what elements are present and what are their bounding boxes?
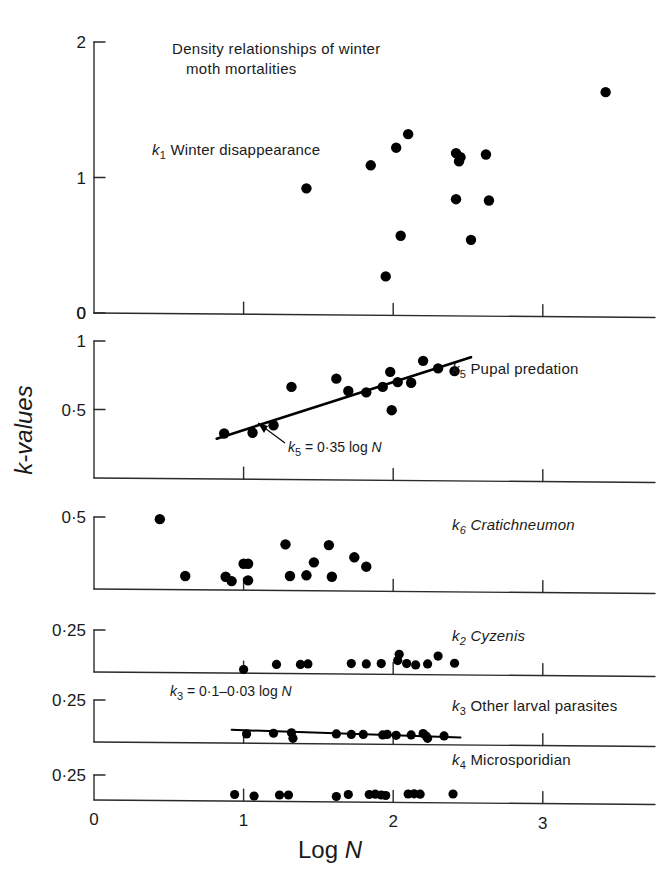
- panel-k6: 0·5k6 Cratichneumon: [61, 508, 655, 594]
- data-point: [301, 183, 311, 193]
- y-axis-title-group: k-values: [10, 385, 37, 474]
- panel-label-k3: k3 Other larval parasites: [452, 697, 617, 717]
- panel-k1: 0120k1 Winter disappearance: [77, 33, 655, 323]
- x-tick-label-0: 0: [89, 810, 98, 829]
- data-point: [392, 377, 402, 387]
- x-tick-label-3: 3: [538, 814, 547, 833]
- y-tick-label-k1-2: 2: [77, 33, 86, 52]
- data-point: [439, 731, 448, 740]
- y-tick-label-k4-0: 0·25: [52, 766, 86, 785]
- data-point: [377, 659, 386, 668]
- data-point: [286, 382, 296, 392]
- data-point: [285, 571, 295, 581]
- data-point: [239, 665, 248, 674]
- figure-container: 0120k1 Winter disappearance0·51k5 Pupal …: [0, 0, 672, 877]
- panel-label-k2: k2 Cyzenis: [452, 627, 525, 647]
- panel-label-k1: k1 Winter disappearance: [152, 141, 320, 161]
- equation-k3-group: k3 = 0·1–0·03 log N: [170, 683, 293, 702]
- data-point: [391, 142, 401, 152]
- data-point: [381, 271, 391, 281]
- data-point: [411, 660, 420, 669]
- data-point: [219, 428, 229, 438]
- figure-title: Density relationships of wintermoth mort…: [172, 40, 381, 77]
- data-point: [451, 194, 461, 204]
- y-tick-label-k2-0: 0·25: [52, 621, 86, 640]
- y-tick-label-k1-zero: 0: [77, 304, 86, 323]
- x-axis-k4: [94, 800, 655, 805]
- data-point: [275, 790, 284, 799]
- figure-title-line-2: moth mortalities: [186, 60, 297, 77]
- data-point: [466, 235, 476, 245]
- data-point: [385, 367, 395, 377]
- data-point: [423, 659, 432, 668]
- x-axis-k2: [94, 672, 655, 677]
- data-point: [450, 659, 459, 668]
- data-point: [600, 87, 610, 97]
- data-point: [288, 734, 297, 743]
- data-point: [392, 731, 401, 740]
- data-point: [433, 363, 443, 373]
- equation-k3: k3 = 0·1–0·03 log N: [170, 683, 293, 702]
- panel-label-k6: k6 Cratichneumon: [452, 516, 575, 536]
- data-point: [423, 734, 432, 743]
- data-point: [243, 575, 253, 585]
- density-relationships-scatter-figure: 0120k1 Winter disappearance0·51k5 Pupal …: [0, 0, 672, 877]
- panel-k4: 0·250123k4 Microsporidian: [52, 751, 655, 833]
- x-axis-k3: [94, 742, 655, 747]
- data-point: [448, 789, 457, 798]
- data-point: [331, 373, 341, 383]
- figure-title-line-1: Density relationships of winter: [172, 40, 381, 57]
- x-axis-k1: [94, 313, 655, 318]
- fit-line-k5: [217, 357, 471, 439]
- data-point: [180, 571, 190, 581]
- data-point: [269, 729, 278, 738]
- data-point: [303, 659, 312, 668]
- data-point: [272, 660, 281, 669]
- data-point: [381, 791, 390, 800]
- data-point: [332, 729, 341, 738]
- data-point: [362, 659, 371, 668]
- y-tick-label-k3-0: 0·25: [52, 691, 86, 710]
- data-point: [268, 420, 278, 430]
- data-point: [247, 428, 257, 438]
- data-point: [332, 792, 341, 801]
- data-point: [366, 160, 376, 170]
- data-point: [226, 576, 236, 586]
- y-axis-title: k-values: [10, 385, 37, 474]
- data-point: [433, 651, 442, 660]
- data-point: [402, 659, 411, 668]
- data-point: [230, 790, 239, 799]
- data-point: [242, 729, 251, 738]
- x-axis-title-group: Log N: [298, 836, 363, 863]
- data-point: [280, 539, 290, 549]
- data-point: [309, 557, 319, 567]
- y-tick-label-k5-0: 0·5: [61, 401, 86, 420]
- data-point: [395, 231, 405, 241]
- y-tick-label-k1-1: 1: [77, 169, 86, 188]
- panel-label-k5: k5 Pupal predation: [452, 360, 578, 380]
- data-point: [361, 561, 371, 571]
- data-point: [361, 387, 371, 397]
- data-point: [416, 790, 425, 799]
- panel-k2: 0·25k2 Cyzenis: [52, 621, 655, 677]
- data-point: [395, 650, 404, 659]
- x-axis-k6: [94, 589, 655, 594]
- data-point: [407, 730, 416, 739]
- data-point: [418, 356, 428, 366]
- data-point: [455, 152, 465, 162]
- figure-body: 0120k1 Winter disappearance0·51k5 Pupal …: [10, 33, 655, 863]
- data-point: [284, 790, 293, 799]
- data-point: [406, 378, 416, 388]
- y-tick-label-k6-0: 0·5: [61, 508, 86, 527]
- data-point: [343, 386, 353, 396]
- data-point: [344, 790, 353, 799]
- data-point: [347, 730, 356, 739]
- panel-label-k4: k4 Microsporidian: [452, 751, 571, 771]
- equation-k5: k5 = 0·35 log N: [288, 439, 383, 458]
- data-point: [349, 552, 359, 562]
- data-point: [403, 129, 413, 139]
- x-tick-label-1: 1: [239, 811, 248, 830]
- data-point: [347, 659, 356, 668]
- data-point: [301, 570, 311, 580]
- data-point: [484, 195, 494, 205]
